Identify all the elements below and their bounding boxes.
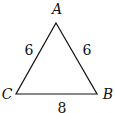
triangle-diagram: A B C 6 6 8 bbox=[0, 0, 115, 113]
side-label-ac: 6 bbox=[25, 42, 34, 58]
triangle-svg: A B C 6 6 8 bbox=[0, 0, 115, 113]
side-label-cb: 8 bbox=[58, 100, 67, 113]
triangle-abc bbox=[16, 23, 97, 94]
vertex-label-b: B bbox=[102, 86, 113, 102]
vertex-label-a: A bbox=[50, 1, 62, 17]
vertex-label-c: C bbox=[2, 86, 13, 102]
side-label-ab: 6 bbox=[83, 42, 92, 58]
